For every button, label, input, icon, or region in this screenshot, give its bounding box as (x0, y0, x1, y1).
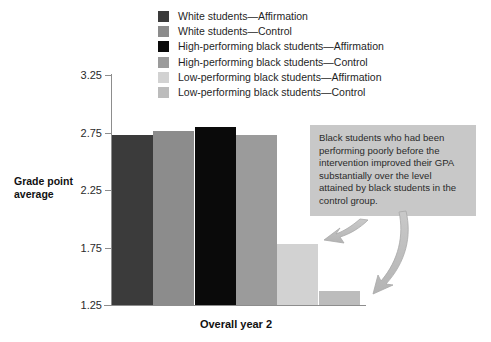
bar (319, 291, 360, 305)
bar (195, 127, 236, 305)
legend-item-label: High-performing black students—Control (178, 57, 368, 68)
y-axis-tick-label: 2.75 (56, 127, 102, 139)
bar (153, 131, 194, 305)
y-axis-title: Grade point average (14, 175, 84, 200)
legend-item: High-performing black students—Affirmati… (158, 39, 458, 54)
bar (236, 135, 277, 305)
bar (112, 135, 153, 305)
y-axis-tick-mark (105, 190, 111, 191)
x-axis-title: Overall year 2 (112, 318, 360, 330)
bar (277, 244, 318, 305)
legend-swatch-icon (158, 11, 169, 22)
annotation-callout: Black students who had been performing p… (310, 125, 476, 216)
y-axis-tick-mark (105, 133, 111, 134)
arrow-to-low-control (373, 211, 408, 294)
y-axis-tick-label: 1.75 (56, 242, 102, 254)
y-axis-tick-label: 3.25 (56, 69, 102, 81)
legend-item-label: White students—Control (178, 26, 292, 37)
legend-item: White students—Control (158, 24, 458, 39)
legend-item-label: White students—Affirmation (178, 11, 308, 22)
legend-item: High-performing black students—Control (158, 55, 458, 70)
legend-item: White students—Affirmation (158, 9, 458, 24)
legend-item-label: High-performing black students—Affirmati… (178, 41, 384, 52)
y-axis-tick-mark (105, 75, 111, 76)
x-axis-line (104, 305, 366, 306)
y-axis-tick-label: 1.25 (56, 299, 102, 311)
chart-figure: White students—AffirmationWhite students… (0, 0, 491, 342)
y-axis-title-line-1: Grade point (14, 175, 84, 188)
legend-swatch-icon (158, 41, 169, 52)
y-axis-tick-mark (105, 248, 111, 249)
legend-swatch-icon (158, 26, 169, 37)
legend-swatch-icon (158, 57, 169, 68)
y-axis-title-line-2: average (14, 188, 84, 201)
